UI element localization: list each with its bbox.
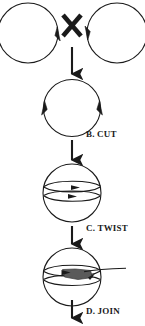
stage-label-twist: C. TWIST bbox=[86, 223, 128, 233]
loop-left-circle bbox=[0, 3, 58, 63]
stage-d-group bbox=[43, 248, 126, 306]
stage-label-cut: B. CUT bbox=[86, 129, 117, 139]
diagram-canvas bbox=[0, 0, 145, 326]
cut-circle bbox=[44, 80, 101, 137]
recombination-diagram: B. CUT C. TWIST D. JOIN bbox=[0, 0, 145, 326]
join-trailing-strand bbox=[84, 268, 126, 272]
stage-b-group bbox=[42, 80, 103, 137]
twist-arrowhead-lower-icon bbox=[68, 194, 77, 199]
loop-right-circle bbox=[87, 3, 145, 63]
cross-multiply-icon bbox=[63, 15, 81, 36]
stage-c-group bbox=[43, 164, 101, 222]
stage-label-join: D. JOIN bbox=[86, 306, 120, 316]
twist-arrowhead-upper-icon bbox=[71, 185, 80, 190]
join-band-lower-bottom-edge bbox=[44, 280, 100, 285]
